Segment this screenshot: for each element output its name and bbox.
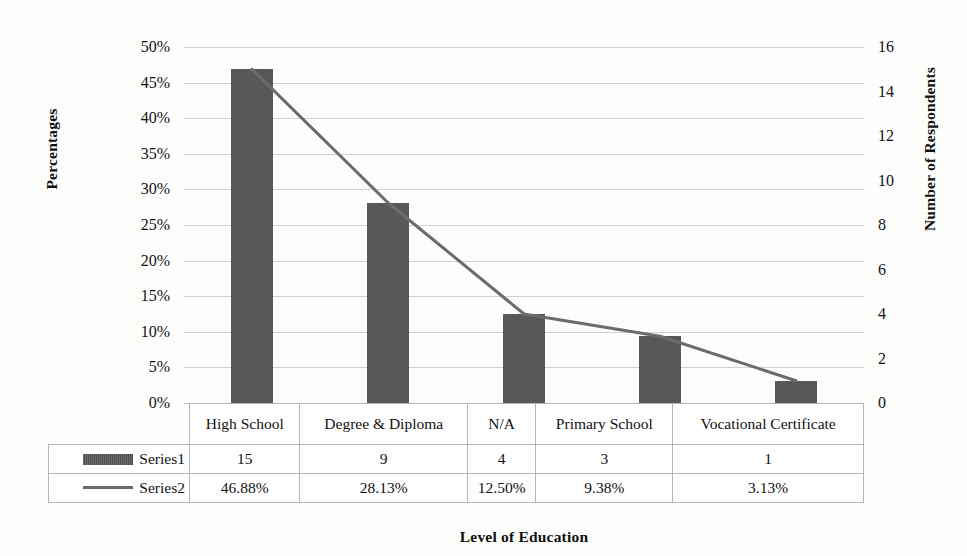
legend-cell-series2[interactable]: Series2 [49,474,190,503]
table-cell-r0-c2: 4 [468,445,536,474]
category-header-2: N/A [468,404,536,445]
y-axis-right-tick-1: 14 [878,84,894,100]
y-axis-left-tick-5: 25% [40,217,170,233]
category-header-3: Primary School [536,404,673,445]
table-cell-r0-c0: 15 [190,445,300,474]
y-axis-right-tick-5: 6 [878,262,886,278]
table-cell-r0-c4: 1 [673,445,864,474]
y-axis-right-tick-7: 2 [878,351,886,367]
y-axis-right-tick-6: 4 [878,306,886,322]
y-axis-left-tick-1: 45% [40,75,170,91]
table-row: Series1159431 [49,445,864,474]
table-cell-r0-c1: 9 [300,445,468,474]
series2-polyline [252,69,796,381]
category-header-0: High School [190,404,300,445]
plot-area [184,47,864,403]
legend-label: Series1 [139,451,185,468]
table-cell-r1-c0: 46.88% [190,474,300,503]
y-axis-left-tick-6: 20% [40,253,170,269]
y-axis-right-tick-0: 16 [878,39,894,55]
legend-cell-series1[interactable]: Series1 [49,445,190,474]
y-axis-left-tick-3: 35% [40,146,170,162]
y-axis-right-tick-4: 8 [878,217,886,233]
y-axis-left-tick-7: 15% [40,288,170,304]
category-header-1: Degree & Diploma [300,404,468,445]
y-axis-left-tick-9: 5% [40,359,170,375]
legend-line-swatch-icon [83,486,133,489]
table-cell-r1-c1: 28.13% [300,474,468,503]
data-table: High SchoolDegree & DiplomaN/APrimary Sc… [48,403,864,503]
table-header-row: High SchoolDegree & DiplomaN/APrimary Sc… [49,404,864,445]
category-header-4: Vocational Certificate [673,404,864,445]
y-axis-left-tick-2: 40% [40,110,170,126]
table-corner-cell [49,404,190,445]
table-row: Series246.88%28.13%12.50%9.38%3.13% [49,474,864,503]
x-axis-title: Level of Education [184,528,864,546]
line-series [184,47,864,403]
y-axis-right-tick-3: 10 [878,173,894,189]
legend-bar-swatch-icon [83,454,133,465]
y-axis-right-tick-8: 0 [878,395,886,411]
table-cell-r1-c4: 3.13% [673,474,864,503]
y-axis-left-tick-4: 30% [40,181,170,197]
chart-figure: Percentages Number of Respondents 50%45%… [0,0,967,556]
y-axis-left-tick-0: 50% [40,39,170,55]
table-cell-r1-c2: 12.50% [468,474,536,503]
y-axis-right-title: Number of Respondents [921,49,939,249]
table-cell-r1-c3: 9.38% [536,474,673,503]
table-cell-r0-c3: 3 [536,445,673,474]
y-axis-right-tick-2: 12 [878,128,894,144]
y-axis-left-tick-8: 10% [40,324,170,340]
legend-label: Series2 [139,480,185,497]
